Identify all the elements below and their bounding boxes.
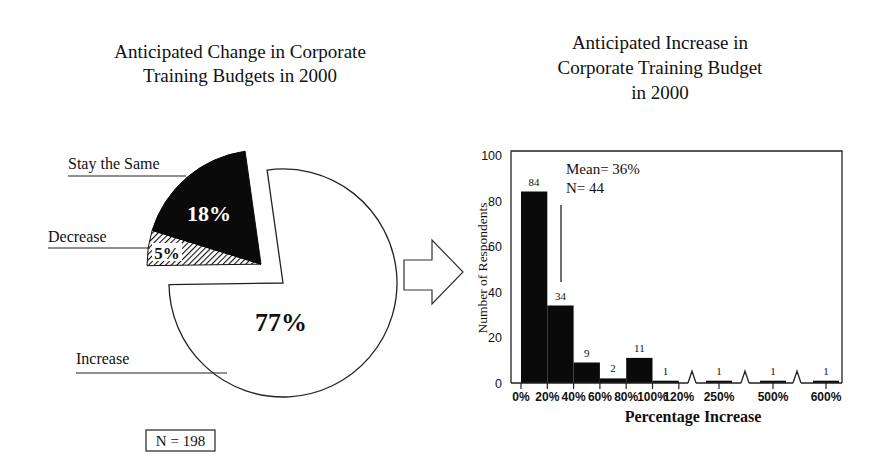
mean-annotation: Mean= 36% — [566, 161, 640, 177]
hist-bar-value-label: 9 — [584, 347, 590, 359]
x-tick-label: 250% — [704, 390, 735, 404]
hist-bar — [547, 306, 573, 384]
y-tick-label: 20 — [488, 331, 502, 345]
y-tick-label: 40 — [488, 286, 502, 300]
x-axis-label: Percentage Increase — [625, 408, 762, 426]
x-tick-label: 20% — [535, 390, 559, 404]
pie-value-stay-the-same: 18% — [187, 201, 231, 226]
x-tick-label: 500% — [758, 390, 789, 404]
x-tick-label: 80% — [614, 390, 638, 404]
sample-size-label: N = 198 — [156, 433, 205, 449]
hist-bar-value-label: 1 — [770, 365, 776, 377]
pie-value-decrease: 5% — [154, 244, 180, 263]
hist-bar-value-label: 1 — [823, 365, 829, 377]
hist-title-line-3: in 2000 — [631, 82, 689, 103]
pie-title-line-2: Training Budgets in 2000 — [143, 65, 337, 86]
x-tick-label: 0% — [512, 390, 530, 404]
y-tick-label: 60 — [488, 240, 502, 254]
x-tick-label: 40% — [562, 390, 586, 404]
hist-bar-value-label: 84 — [529, 176, 541, 188]
pie-label-stay-the-same: Stay the Same — [68, 155, 160, 173]
hist-bar — [626, 358, 652, 383]
hist-bar-value-label: 1 — [663, 365, 669, 377]
pie-chart: Anticipated Change in Corporate Training… — [48, 41, 397, 451]
histogram-chart: Anticipated Increase in Corporate Traini… — [475, 32, 842, 426]
x-tick-label: 60% — [588, 390, 612, 404]
y-axis-label: Number of Respondents — [475, 202, 490, 333]
hist-bar-value-label: 34 — [555, 290, 567, 302]
x-tick-label: 600% — [811, 390, 842, 404]
pie-label-decrease: Decrease — [48, 228, 107, 245]
hist-bar-value-label: 1 — [716, 365, 722, 377]
n-annotation: N= 44 — [566, 180, 605, 196]
pie-label-increase: Increase — [76, 350, 129, 367]
pie-title-line-1: Anticipated Change in Corporate — [114, 41, 366, 62]
figure: Anticipated Change in Corporate Training… — [0, 0, 887, 471]
hist-bar — [521, 192, 547, 384]
hist-title-line-1: Anticipated Increase in — [572, 32, 749, 53]
y-tick-label: 100 — [481, 149, 502, 163]
pie-value-increase: 77% — [255, 308, 307, 337]
hist-bar-value-label: 11 — [634, 342, 645, 354]
hist-title-line-2: Corporate Training Budget — [558, 57, 763, 78]
x-tick-label: 120% — [663, 390, 694, 404]
hist-bar — [600, 378, 626, 383]
hist-bars: 843492111111 — [521, 176, 839, 384]
hist-bar — [574, 363, 600, 384]
hist-x-axis: 0%20%40%60%80%100%120%250%500%600% — [512, 383, 841, 404]
hist-bar-value-label: 2 — [610, 362, 616, 374]
right-arrow-icon — [404, 240, 463, 304]
y-tick-label: 80 — [488, 195, 502, 209]
y-tick-label: 0 — [495, 377, 502, 391]
